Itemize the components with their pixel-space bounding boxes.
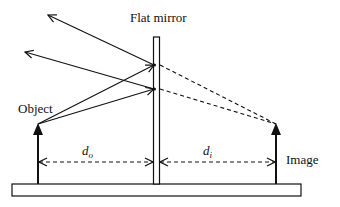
flat-mirror [154,37,160,184]
object-label: Object [18,101,53,116]
mirror-label: Flat mirror [130,10,187,25]
image-distance-label: di [203,143,213,160]
flat-mirror-diagram: Flat mirror Object Image do di [0,0,340,207]
virtual-ray-1 [160,65,276,124]
image-label: Image [286,152,319,167]
object-arrow [33,123,43,184]
reflection-point-2 [153,88,156,91]
image-arrow [271,123,281,184]
object-distance-label: do [82,143,94,160]
reflection-point-1 [153,64,156,67]
reflected-ray-2 [25,52,154,89]
base-bench [12,184,301,196]
